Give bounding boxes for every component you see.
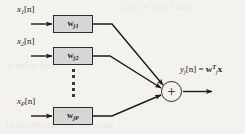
weight-block-2-label: wj2 [67, 51, 78, 61]
wire-block-1-to-sum [93, 24, 163, 85]
weight-block-1: wj1 [53, 15, 93, 33]
input-label-3: xP[n] [17, 97, 35, 107]
weight-1-subscript: j1 [74, 23, 79, 29]
weight-block-3-label: wjP [67, 111, 79, 121]
output-input-vector: x [218, 64, 223, 74]
summation-node: + [161, 81, 182, 102]
output-index: [n] [186, 64, 197, 74]
wire-block-3-to-sum [93, 95, 161, 116]
input-1-index: [n] [24, 4, 35, 14]
weight-block-2: wj2 [53, 47, 93, 65]
output-equals: = [198, 64, 203, 74]
input-label-2: x2[n] [17, 37, 35, 47]
weight-block-1-label: wj1 [67, 19, 78, 29]
input-label-1: x1[n] [17, 5, 35, 15]
vertical-ellipsis-icon [71, 69, 75, 97]
input-2-index: [n] [24, 36, 35, 46]
wire-block-2-to-sum [93, 56, 161, 88]
weight-2-subscript: j2 [74, 55, 79, 61]
figure-canvas: a(n) = s(n) Thus a delay line In the Me … [0, 0, 245, 134]
weight-3-subscript: jP [73, 115, 79, 121]
output-label: yj[n] = wTjx [180, 64, 222, 75]
input-3-index: [n] [25, 96, 36, 106]
plus-icon: + [167, 84, 175, 99]
weight-block-3: wjP [53, 107, 93, 125]
